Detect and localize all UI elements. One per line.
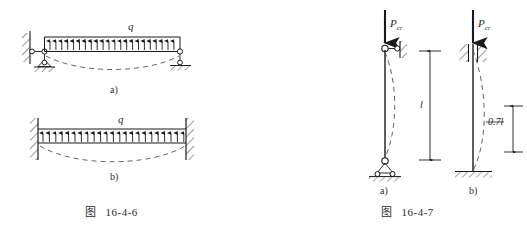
deflection-curve-a — [46, 56, 179, 70]
effective-length-label-b: 0.7l — [488, 117, 503, 127]
distributed-load-arrows-a — [50, 41, 174, 50]
part-label-a: a) — [110, 85, 118, 95]
load-label-q-a: q — [128, 21, 134, 32]
caption-prefix: 图 — [85, 206, 97, 218]
load-label-pcr-a: Pcr — [390, 18, 403, 32]
buckled-shape-a — [385, 52, 395, 158]
column-a-assembly — [369, 10, 441, 182]
effective-length-label-a: l — [420, 100, 423, 110]
load-symbol-a: P — [390, 17, 397, 29]
figure-16-4-7: Pcr Pcr l 0.7l a) b) 图16-4-7 — [264, 0, 527, 236]
caption-number: 16-4-6 — [106, 206, 138, 218]
part-label-b: b) — [110, 172, 118, 182]
column-b-assembly — [455, 10, 523, 178]
dimension-line-b — [486, 106, 523, 152]
deflection-curve-b — [40, 146, 185, 162]
load-subscript-a: cr — [397, 24, 403, 32]
caption-prefix: 图 — [381, 206, 393, 218]
load-label-pcr-b: Pcr — [478, 18, 491, 32]
beam-line-a — [45, 37, 181, 52]
beam-b-assembly — [30, 118, 194, 162]
distributed-load-arrows-b — [43, 133, 184, 142]
part-label-a-fig7: a) — [380, 186, 388, 196]
part-label-b-fig7: b) — [469, 186, 477, 196]
load-subscript-b: cr — [485, 24, 491, 32]
caption-number: 16-4-7 — [402, 206, 434, 218]
left-fixed-wall-b — [30, 118, 38, 160]
left-wall-a — [22, 31, 30, 64]
figure-16-4-6-drawing — [0, 0, 264, 236]
figure-sheet: q a) q b) 图16-4-6 — [0, 0, 527, 236]
right-fixed-wall-b — [186, 118, 194, 160]
fixed-base-b — [455, 172, 492, 178]
figure-16-4-6: q a) q b) 图16-4-6 — [0, 0, 264, 236]
load-symbol-b: P — [478, 17, 485, 29]
figure-caption-16-4-6: 图16-4-6 — [85, 203, 138, 219]
top-link-wall-a — [388, 41, 407, 58]
left-pin-support-a — [34, 54, 55, 72]
beam-a-assembly — [22, 31, 191, 72]
right-roller-support-a — [170, 49, 191, 71]
beam-line-b — [38, 129, 186, 143]
figure-caption-16-4-7: 图16-4-7 — [381, 203, 434, 219]
base-pin-roller-a — [369, 158, 401, 182]
buckled-shape-b — [473, 50, 484, 171]
load-label-q-b: q — [118, 114, 124, 125]
